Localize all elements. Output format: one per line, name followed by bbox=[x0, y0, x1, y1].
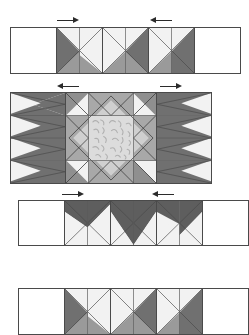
bottom-row bbox=[18, 288, 204, 335]
flying-geese-unit bbox=[110, 200, 157, 246]
press-arrow-left bbox=[57, 83, 79, 90]
arrow-shaft bbox=[62, 194, 79, 195]
side-geese-column bbox=[156, 92, 212, 184]
top-row bbox=[10, 27, 196, 74]
arrow-shaft bbox=[57, 20, 74, 21]
third-row bbox=[18, 200, 204, 246]
flying-geese-unit bbox=[156, 200, 203, 246]
arrow-shaft bbox=[155, 20, 172, 21]
press-arrow-right bbox=[152, 191, 174, 198]
seam-diagonals bbox=[65, 289, 110, 334]
background-square bbox=[18, 200, 65, 246]
flying-geese-unit bbox=[64, 288, 111, 335]
seam-diagonals bbox=[157, 93, 211, 183]
side-geese-column bbox=[10, 92, 66, 184]
seam-diagonals bbox=[11, 93, 65, 183]
background-square bbox=[202, 288, 249, 335]
flying-geese-unit bbox=[102, 27, 149, 74]
seam-diagonals bbox=[66, 93, 156, 183]
seam-diagonals bbox=[157, 289, 202, 334]
seam-diagonals bbox=[111, 289, 156, 334]
arrow-shaft bbox=[62, 86, 79, 87]
arrow-head-icon bbox=[176, 83, 182, 89]
seam-diagonals bbox=[57, 28, 102, 73]
seam-diagonals bbox=[157, 201, 202, 245]
flying-geese-unit bbox=[148, 27, 195, 74]
background-square bbox=[202, 200, 249, 246]
star-center-block bbox=[65, 92, 157, 184]
press-arrow-right bbox=[150, 17, 172, 24]
press-arrow-left bbox=[62, 191, 84, 198]
flying-geese-unit bbox=[64, 200, 111, 246]
arrow-shaft bbox=[160, 86, 177, 87]
arrow-shaft bbox=[157, 194, 174, 195]
center-row bbox=[10, 92, 220, 184]
flying-geese-unit bbox=[56, 27, 103, 74]
flying-geese-unit bbox=[110, 288, 157, 335]
arrow-head-icon bbox=[78, 191, 84, 197]
seam-diagonals bbox=[65, 201, 110, 245]
background-square bbox=[18, 288, 65, 335]
background-square bbox=[194, 27, 241, 74]
press-arrow-right bbox=[160, 83, 182, 90]
seam-diagonals bbox=[149, 28, 194, 73]
seam-diagonals bbox=[111, 201, 156, 245]
arrow-head-icon bbox=[150, 17, 156, 23]
arrow-head-icon bbox=[73, 17, 79, 23]
arrow-head-icon bbox=[152, 191, 158, 197]
flying-geese-unit bbox=[156, 288, 203, 335]
arrow-head-icon bbox=[57, 83, 63, 89]
press-arrow-left bbox=[57, 17, 79, 24]
background-square bbox=[10, 27, 57, 74]
seam-diagonals bbox=[103, 28, 148, 73]
